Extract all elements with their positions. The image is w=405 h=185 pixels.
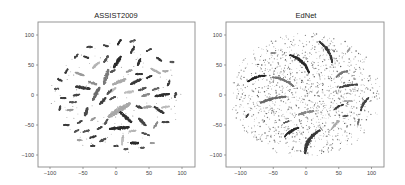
cluster — [73, 94, 81, 97]
y-tick-label: −100 — [210, 152, 222, 158]
cluster — [92, 62, 100, 69]
cluster — [319, 41, 333, 63]
cluster — [162, 70, 168, 73]
cluster — [64, 68, 68, 73]
cluster — [60, 97, 67, 99]
cluster — [77, 120, 83, 124]
cluster — [138, 118, 146, 126]
cluster — [138, 87, 147, 91]
cluster — [90, 117, 95, 121]
scatter-points-ednet — [232, 33, 380, 157]
cluster — [129, 39, 135, 43]
cluster — [154, 93, 169, 97]
cluster — [92, 87, 101, 101]
x-tick-label: −50 — [269, 170, 278, 176]
cluster — [153, 121, 158, 128]
cluster — [342, 115, 348, 117]
cluster — [69, 101, 77, 103]
x-tick-label: 100 — [367, 170, 376, 176]
cluster — [97, 126, 103, 130]
cluster — [121, 135, 124, 146]
cluster — [137, 58, 142, 66]
x-tick-label: −50 — [78, 170, 87, 176]
cluster — [74, 54, 79, 59]
cluster — [245, 114, 248, 118]
cluster — [86, 46, 92, 49]
cluster — [135, 73, 143, 76]
cluster — [344, 100, 353, 102]
cluster — [119, 111, 132, 123]
figure-canvas: ASSIST2009 −100−50050100−100−50050100 Ed… — [0, 0, 405, 185]
x-tick-label: −100 — [234, 170, 246, 176]
y-tick-label: 100 — [25, 32, 34, 38]
cluster — [130, 141, 139, 144]
cluster — [75, 72, 85, 77]
axis-ticks-ednet: −100−50050100−100−50050100 — [210, 32, 376, 176]
x-tick-label: 100 — [177, 170, 186, 176]
cluster — [113, 145, 118, 148]
cluster — [260, 96, 286, 104]
scatter-points-assist2009 — [51, 39, 182, 153]
cluster — [146, 75, 153, 79]
cluster — [124, 90, 134, 94]
cluster — [83, 129, 90, 133]
y-tick-label: −100 — [22, 152, 34, 158]
cluster — [146, 48, 152, 52]
cluster — [117, 39, 122, 45]
cluster — [99, 97, 107, 105]
cluster — [103, 44, 109, 47]
axis-ticks-assist2009: −100−50050100−100−50050100 — [22, 32, 187, 176]
cluster — [126, 69, 133, 73]
figure: ASSIST2009 −100−50050100−100−50050100 Ed… — [0, 0, 405, 185]
cluster — [57, 78, 62, 82]
cluster — [270, 52, 276, 54]
cluster — [161, 105, 170, 108]
y-tick-label: 0 — [31, 92, 34, 98]
cluster — [141, 93, 150, 97]
cluster — [130, 78, 142, 85]
cluster — [67, 109, 74, 112]
x-tick-label: 0 — [304, 170, 307, 176]
cluster — [58, 105, 61, 111]
cluster — [143, 105, 152, 108]
y-tick-label: −50 — [213, 122, 222, 128]
cluster — [99, 138, 106, 142]
x-tick-label: 50 — [146, 170, 152, 176]
cluster — [151, 68, 161, 75]
cluster — [150, 142, 155, 144]
panel-ednet: EdNet −100−50050100−100−50050100 — [210, 11, 384, 176]
cluster — [140, 146, 145, 149]
cluster — [75, 85, 90, 90]
cluster — [104, 119, 108, 125]
cluster — [112, 78, 126, 86]
cluster — [103, 69, 110, 85]
cluster — [113, 56, 122, 69]
cluster — [89, 135, 96, 139]
cluster — [88, 81, 97, 86]
cluster — [107, 102, 131, 118]
cluster — [77, 139, 83, 142]
cluster — [304, 129, 320, 154]
cluster — [129, 130, 137, 133]
y-tick-label: −50 — [25, 122, 34, 128]
cluster — [90, 144, 95, 147]
y-tick-label: 50 — [28, 62, 34, 68]
cluster — [162, 121, 170, 124]
y-tick-label: 50 — [216, 62, 222, 68]
cluster — [298, 110, 314, 116]
cluster — [54, 88, 59, 91]
cluster — [141, 132, 150, 136]
x-tick-label: 50 — [336, 170, 342, 176]
cluster — [74, 129, 79, 133]
cluster — [83, 55, 89, 58]
cluster — [84, 107, 89, 116]
cluster — [63, 124, 69, 127]
cluster — [283, 120, 289, 123]
cluster — [174, 92, 178, 98]
cluster — [156, 57, 162, 62]
y-tick-label: 100 — [213, 32, 222, 38]
x-tick-label: 0 — [114, 170, 117, 176]
panel-title-assist2009: ASSIST2009 — [94, 11, 137, 20]
cluster — [110, 69, 116, 73]
panel-title-ednet: EdNet — [296, 11, 318, 20]
